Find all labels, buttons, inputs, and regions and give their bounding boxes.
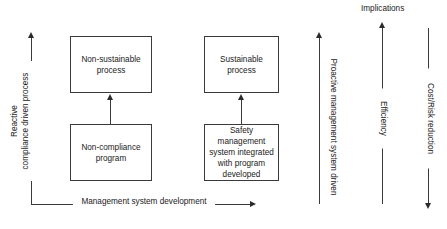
diagram-canvas: Non-sustainable process Non-compliance p…: [0, 0, 447, 229]
box-non-compliance-line2: program: [81, 153, 140, 164]
axis-proactive-arrow-up-icon: [316, 32, 322, 38]
box-non-compliance-program: Non-compliance program: [70, 124, 152, 181]
box-safety-line2: management: [209, 136, 274, 147]
box-safety-management-system: Safety management system integrated with…: [204, 124, 279, 181]
connector-left-line: [110, 99, 111, 124]
axis-proactive-line: [319, 38, 320, 204]
box-safety-line1: Safety: [209, 125, 274, 136]
box-non-sustainable-process: Non-sustainable process: [70, 36, 152, 93]
box-safety-line3: system integrated: [209, 147, 274, 158]
axis-left-label-line1: Reactive: [10, 61, 21, 181]
axis-efficiency-label: Efficiency: [377, 89, 388, 149]
axis-proactive-label: Proactive management system driven: [327, 59, 338, 179]
axis-left-label: Reactive compliance driven process: [10, 61, 32, 181]
axis-left-arrow-up-icon: [28, 32, 34, 38]
implications-heading: Implications: [361, 4, 404, 13]
box-safety-line4: with program: [209, 158, 274, 169]
axis-left-label-line23: compliance driven process: [21, 61, 32, 181]
box-non-compliance-line1: Non-compliance: [81, 142, 140, 153]
box-sustainable-line2: process: [220, 65, 263, 76]
axis-cost-label: Cost/Risk reduction: [424, 69, 435, 169]
box-sustainable-line1: Sustainable: [220, 54, 263, 65]
box-non-sustainable-line1: Non-sustainable: [81, 54, 140, 65]
box-non-sustainable-line2: process: [81, 65, 140, 76]
box-safety-line5: developed: [209, 169, 274, 180]
box-sustainable-process: Sustainable process: [204, 36, 279, 93]
connector-right-arrow-up-icon: [238, 94, 244, 100]
connector-left-arrow-up-icon: [107, 94, 113, 100]
connector-right-line: [241, 99, 242, 124]
axis-bottom-label: Management system development: [73, 197, 215, 206]
axis-cost-arrow-down-icon: [425, 203, 431, 209]
axis-efficiency-arrow-up-icon: [379, 22, 385, 28]
axis-bottom-arrow-right-icon: [250, 201, 256, 207]
